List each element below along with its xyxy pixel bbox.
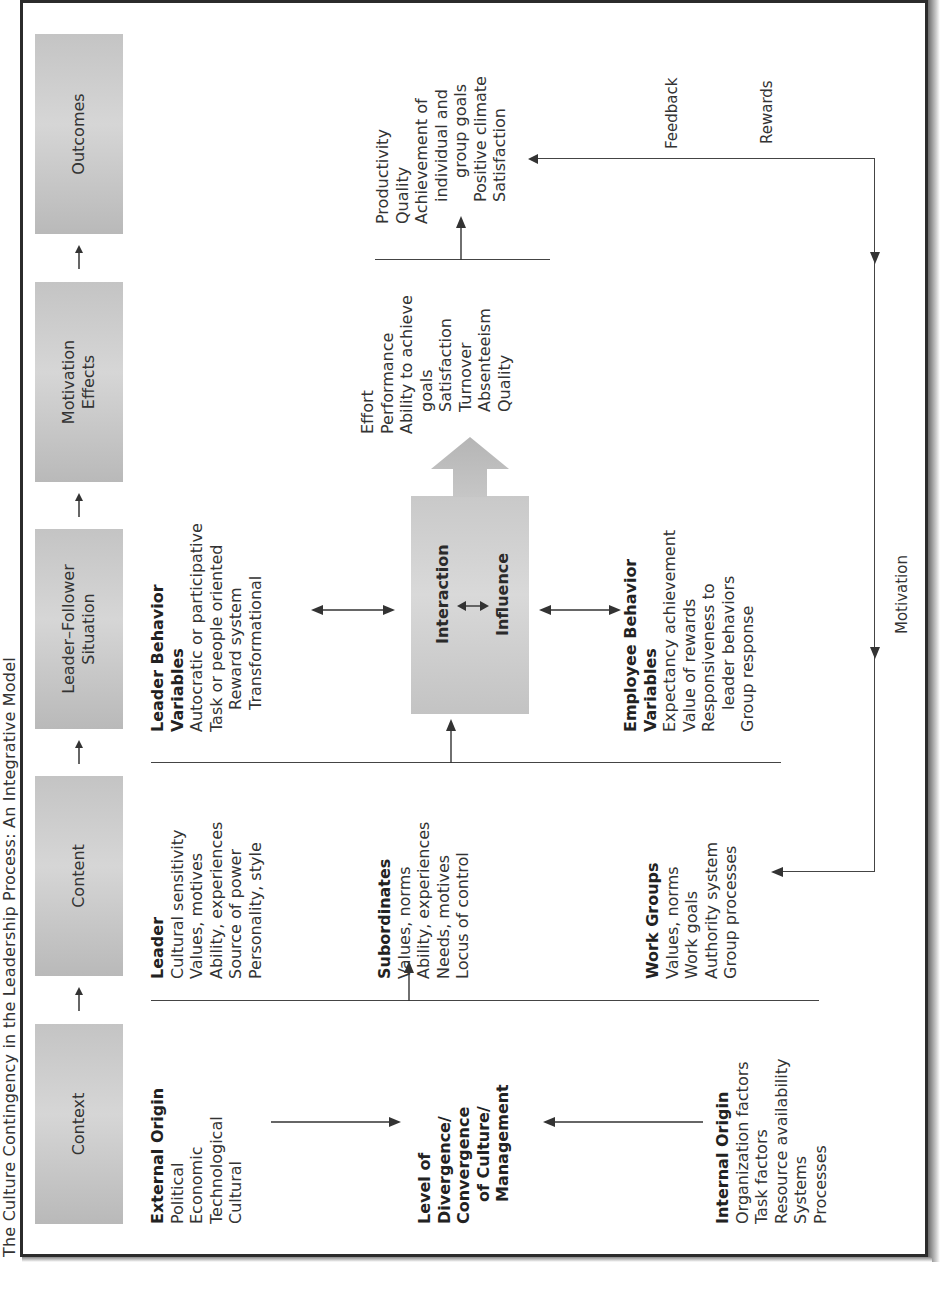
list-item: Responsiveness to	[699, 530, 719, 732]
leader-block: Leader Cultural sensitivity Values, moti…	[148, 822, 265, 979]
block-arrow-right-icon	[431, 437, 509, 497]
list-item: Cultural sensitivity	[168, 822, 188, 979]
work-groups-heading: Work Groups	[643, 842, 663, 979]
divider-content-situation	[151, 762, 781, 763]
leader-heading: Leader	[148, 822, 168, 979]
list-item: Technological	[207, 1088, 227, 1224]
stage-label: Motivation	[59, 340, 79, 424]
level-line: Management	[493, 1084, 513, 1224]
stage-label: Situation	[79, 564, 99, 693]
frame-shadow	[928, 0, 940, 1262]
list-item: Systems	[791, 1059, 811, 1224]
stage-label: Content	[69, 844, 88, 908]
arrow-up-icon	[543, 1110, 703, 1134]
stage-header-content: Content	[35, 776, 123, 976]
employee-behavior-heading: Variables	[641, 530, 661, 732]
list-item: Satisfaction	[436, 295, 456, 434]
list-item: Needs, motives	[434, 822, 454, 979]
list-item: Quality	[393, 76, 413, 224]
outcomes-block: Productivity Quality Achievement of indi…	[373, 76, 510, 224]
list-item: Ability, experiences	[414, 822, 434, 979]
motivation-effects-block: Effort Performance Ability to achieve go…	[358, 295, 514, 434]
list-item: Ability, experiences	[207, 822, 227, 979]
diagram-frame: Context Content Leader–FollowerSituation…	[20, 0, 928, 1257]
list-item: Reward system	[226, 523, 246, 732]
list-item: Values, norms	[395, 822, 415, 979]
list-item: Economic	[187, 1088, 207, 1224]
arrow-up-icon	[771, 864, 785, 878]
list-item: Work goals	[682, 842, 702, 979]
list-item: Value of rewards	[680, 530, 700, 732]
list-item: Positive climate	[471, 76, 491, 224]
double-arrow-vertical-icon	[539, 603, 621, 617]
employee-behavior-heading: Employee Behavior	[621, 530, 641, 732]
leader-behavior-heading: Leader Behavior	[148, 523, 168, 732]
stage-label: Context	[69, 1093, 88, 1156]
list-item: Processes	[811, 1059, 831, 1224]
list-item: Ability to achieve	[397, 295, 417, 434]
list-item: Locus of control	[453, 822, 473, 979]
arrow-left-icon	[868, 252, 882, 264]
list-item: Achievement of	[412, 76, 432, 224]
list-item: group goals	[451, 76, 471, 224]
list-item: Source of power	[226, 822, 246, 979]
list-item: Satisfaction	[490, 76, 510, 224]
external-origin-heading: External Origin	[148, 1088, 168, 1224]
list-item: individual and	[432, 76, 452, 224]
list-item: leader behaviors	[719, 530, 739, 732]
stage-label: Leader–Follower	[59, 564, 79, 693]
list-item: Personality, style	[246, 822, 266, 979]
level-line: of Culture/	[474, 1084, 494, 1224]
interaction-label: Interaction	[433, 544, 452, 644]
figure-title: The Culture Contingency in the Leadershi…	[0, 657, 20, 1257]
arrow-up-icon	[528, 151, 540, 165]
external-origin-block: External Origin Political Economic Techn…	[148, 1088, 246, 1224]
list-item: Cultural	[226, 1088, 246, 1224]
figure-title-wrap: The Culture Contingency in the Leadershi…	[0, 0, 20, 1257]
list-item: Transformational	[246, 523, 266, 732]
arrow-right-icon	[73, 493, 87, 517]
loop-line-outcomes	[531, 158, 874, 159]
list-item: Absenteeism	[475, 295, 495, 434]
arrow-right-icon	[445, 719, 457, 763]
stage-header-context: Context	[35, 1024, 123, 1224]
double-arrow-vertical-icon	[311, 603, 395, 617]
list-item: Expectancy achievement	[660, 530, 680, 732]
double-arrow-vertical-icon	[457, 599, 489, 613]
employee-behavior-block: Employee Behavior Variables Expectancy a…	[621, 530, 758, 732]
level-line: Level of	[415, 1084, 435, 1224]
list-item: Task factors	[752, 1059, 772, 1224]
frame-shadow-bottom	[22, 1257, 932, 1262]
list-item: Authority system	[702, 842, 722, 979]
rewards-label: Rewards	[758, 80, 776, 144]
feedback-label: Feedback	[663, 78, 681, 149]
stage-label: Outcomes	[69, 93, 88, 174]
interaction-influence-box: Interaction Influence	[411, 496, 529, 714]
stage-label: Effects	[79, 340, 99, 424]
list-item: Productivity	[373, 76, 393, 224]
list-item: Quality	[495, 295, 515, 434]
list-item: goals	[417, 295, 437, 434]
arrow-right-icon	[73, 245, 87, 269]
loop-line-work-groups	[783, 871, 875, 872]
level-line: Divergence/	[435, 1084, 455, 1224]
list-item: Values, motives	[187, 822, 207, 979]
list-item: Values, norms	[663, 842, 683, 979]
arrow-right-icon	[73, 740, 87, 764]
stage-header-outcomes: Outcomes	[35, 34, 123, 234]
subordinates-heading: Subordinates	[375, 822, 395, 979]
list-item: Performance	[378, 295, 398, 434]
list-item: Group processes	[721, 842, 741, 979]
leader-behavior-block: Leader Behavior Variables Autocratic or …	[148, 523, 265, 732]
internal-origin-heading: Internal Origin	[713, 1059, 733, 1224]
list-item: Political	[168, 1088, 188, 1224]
arrow-right-icon	[73, 987, 87, 1011]
level-line: Convergence	[454, 1084, 474, 1224]
level-of-divergence-block: Level of Divergence/ Convergence of Cult…	[415, 1084, 513, 1224]
work-groups-block: Work Groups Values, norms Work goals Aut…	[643, 842, 741, 979]
list-item: Effort	[358, 295, 378, 434]
influence-label: Influence	[493, 553, 512, 636]
list-item: Resource availability	[772, 1059, 792, 1224]
stage-header-motivation-effects: MotivationEffects	[35, 282, 123, 482]
motivation-loop-label: Motivation	[893, 555, 911, 634]
